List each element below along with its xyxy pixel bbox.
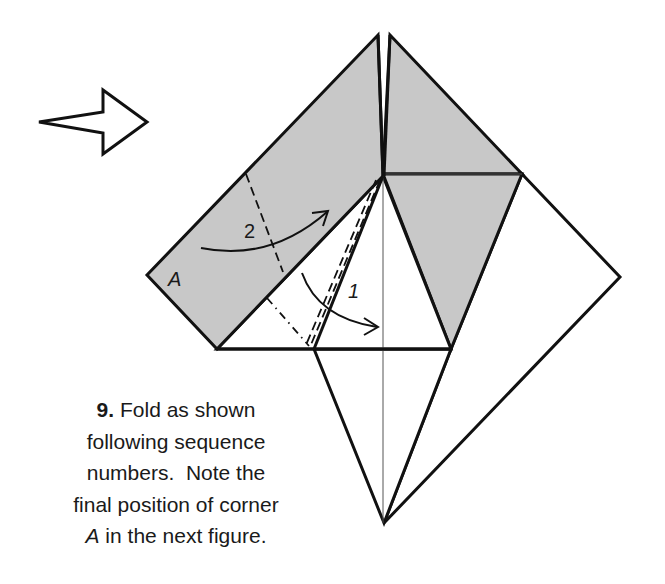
sequence-label-1: 1 bbox=[348, 280, 359, 302]
caption-line-5: A in the next figure. bbox=[40, 520, 312, 552]
caption-line-2: following sequence bbox=[40, 426, 312, 458]
step-caption: 9. Fold as shown following sequence numb… bbox=[40, 394, 312, 552]
caption-line-1-text: Fold as shown bbox=[114, 398, 255, 421]
caption-line-1: 9. Fold as shown bbox=[40, 394, 312, 426]
step-number: 9. bbox=[97, 398, 115, 421]
view-direction-arrow-icon bbox=[39, 90, 147, 154]
caption-corner-ref: A bbox=[86, 524, 100, 547]
sequence-label-2: 2 bbox=[244, 220, 255, 242]
caption-line-4: final position of corner bbox=[40, 489, 312, 521]
caption-line-3: numbers. Note the bbox=[40, 457, 312, 489]
gray-flap-top-right bbox=[383, 35, 522, 174]
caption-line-5-text: in the next figure. bbox=[100, 524, 267, 547]
corner-label-a: A bbox=[167, 268, 181, 290]
